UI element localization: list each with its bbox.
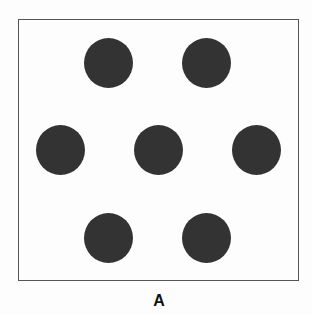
dot-top-right [182, 38, 231, 88]
figure-label: A [0, 292, 312, 310]
dot-top-left [84, 38, 133, 88]
dot-middle-right [232, 125, 281, 175]
dot-middle-center [134, 125, 183, 175]
dot-bottom-right [182, 213, 231, 263]
dot-bottom-left [84, 213, 133, 263]
dot-middle-left [36, 125, 85, 175]
